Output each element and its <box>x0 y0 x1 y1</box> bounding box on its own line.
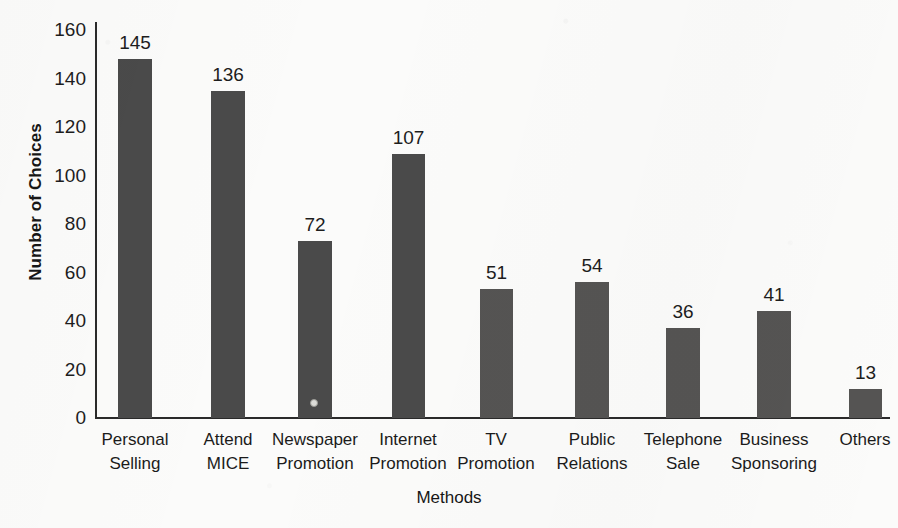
bar-value-label: 54 <box>547 255 637 277</box>
x-category-label: Others <box>805 428 898 452</box>
bar-value-label: 51 <box>452 262 542 284</box>
bar-value-label: 41 <box>729 284 819 306</box>
bar-value-label: 136 <box>183 64 273 86</box>
bar-value-label: 36 <box>638 301 728 323</box>
bar <box>757 311 791 418</box>
scan-artifact-speck <box>310 399 318 407</box>
bar-value-label: 72 <box>270 214 360 236</box>
bar-value-label: 107 <box>364 127 454 149</box>
bar <box>118 59 152 418</box>
bar <box>480 289 513 418</box>
bar <box>666 328 700 418</box>
bar <box>211 91 245 418</box>
bar-chart: Number of Choices 020406080100120140160 … <box>0 0 898 528</box>
bar-value-label: 145 <box>90 32 180 54</box>
bar <box>298 241 332 418</box>
bar <box>575 282 609 418</box>
bar <box>849 389 882 418</box>
bar-value-label: 13 <box>821 362 898 384</box>
bar <box>392 154 425 418</box>
x-category-label-line: Others <box>805 428 898 452</box>
x-category-label-line: Sponsoring <box>714 452 834 476</box>
x-axis-title: Methods <box>0 488 898 508</box>
